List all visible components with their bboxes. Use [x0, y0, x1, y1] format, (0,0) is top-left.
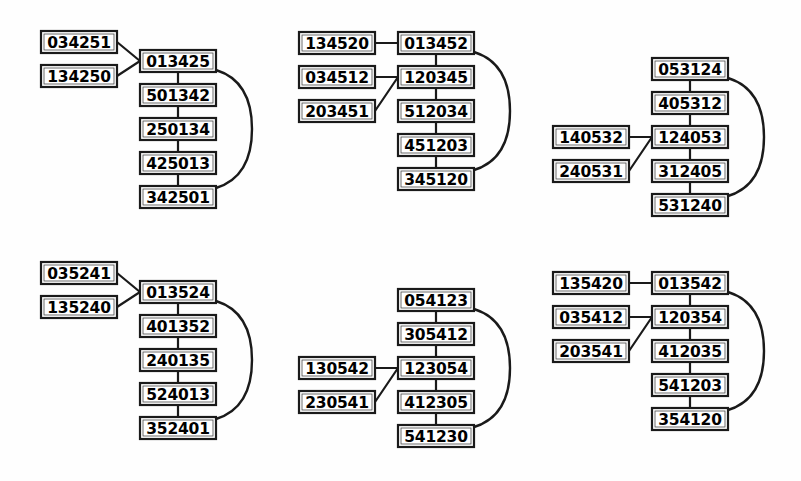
spine-node[interactable]: 541230 — [398, 425, 474, 447]
spine-node[interactable]: 501342 — [140, 84, 216, 106]
node-label: 135420 — [559, 275, 623, 293]
spine-node[interactable]: 124053 — [652, 126, 728, 148]
node-label: 345120 — [404, 171, 468, 189]
node-label: 240531 — [559, 163, 623, 181]
node-label: 140532 — [559, 129, 623, 147]
spine-node[interactable]: 342501 — [140, 186, 216, 208]
node-label: 531240 — [658, 197, 722, 215]
node-label: 354120 — [658, 411, 722, 429]
node-label: 013425 — [146, 53, 210, 71]
node-label: 013452 — [404, 35, 468, 53]
node-label: 250134 — [146, 121, 210, 139]
node-label: 342501 — [146, 189, 210, 207]
node-label: 013524 — [146, 284, 210, 302]
spine-node[interactable]: 405312 — [652, 92, 728, 114]
spine-node[interactable]: 053124 — [652, 58, 728, 80]
spine-node[interactable]: 013542 — [652, 272, 728, 294]
spine-node[interactable]: 305412 — [398, 323, 474, 345]
spine-node[interactable]: 250134 — [140, 118, 216, 140]
node-label: 501342 — [146, 87, 210, 105]
spine-node[interactable]: 013524 — [140, 281, 216, 303]
node-label: 524013 — [146, 386, 210, 404]
node-label: 405312 — [658, 95, 722, 113]
node-label: 135240 — [47, 299, 111, 317]
node-label: 130542 — [305, 360, 369, 378]
spine-node[interactable]: 512034 — [398, 100, 474, 122]
branch-node[interactable]: 134520 — [299, 32, 375, 54]
spine-node[interactable]: 531240 — [652, 194, 728, 216]
spine-node[interactable]: 541203 — [652, 374, 728, 396]
node-label: 034512 — [305, 69, 369, 87]
node-label: 120354 — [658, 309, 722, 327]
spine-node[interactable]: 412035 — [652, 340, 728, 362]
bypass-curve — [474, 52, 510, 170]
node-label: 034251 — [47, 34, 111, 52]
branch-node[interactable]: 034251 — [41, 31, 117, 53]
spine-node[interactable]: 123054 — [398, 357, 474, 379]
node-label: 425013 — [146, 155, 210, 173]
spine-node[interactable]: 345120 — [398, 168, 474, 190]
branch-connector — [117, 61, 140, 76]
branch-connector — [375, 77, 398, 111]
node-label: 401352 — [146, 318, 210, 336]
bypass-curve — [216, 301, 252, 419]
spine-node[interactable]: 312405 — [652, 160, 728, 182]
spine-node[interactable]: 451203 — [398, 134, 474, 156]
bypass-curve — [474, 309, 510, 427]
spine-node[interactable]: 013452 — [398, 32, 474, 54]
node-label: 240135 — [146, 352, 210, 370]
spine-node[interactable]: 524013 — [140, 383, 216, 405]
node-label: 203541 — [559, 343, 623, 361]
node-label: 054123 — [404, 292, 468, 310]
node-label: 312405 — [658, 163, 722, 181]
branch-node[interactable]: 035241 — [41, 262, 117, 284]
branch-node[interactable]: 203451 — [299, 100, 375, 122]
node-label: 134520 — [305, 35, 369, 53]
branch-node[interactable]: 140532 — [553, 126, 629, 148]
branch-connector — [117, 42, 140, 61]
branch-node[interactable]: 135240 — [41, 296, 117, 318]
node-label: 123054 — [404, 360, 468, 378]
node-label: 013542 — [658, 275, 722, 293]
spine-node[interactable]: 401352 — [140, 315, 216, 337]
node-label: 451203 — [404, 137, 468, 155]
node-label: 541230 — [404, 428, 468, 446]
diagram-canvas: 0342511342500134255013422501344250133425… — [0, 0, 801, 481]
node-label: 124053 — [658, 129, 722, 147]
branch-node[interactable]: 134250 — [41, 65, 117, 87]
node-label: 352401 — [146, 420, 210, 438]
node-label: 134250 — [47, 68, 111, 86]
branch-node[interactable]: 230541 — [299, 391, 375, 413]
branch-connector — [117, 273, 140, 292]
spine-node[interactable]: 120354 — [652, 306, 728, 328]
node-label: 512034 — [404, 103, 468, 121]
branch-node[interactable]: 240531 — [553, 160, 629, 182]
branch-node[interactable]: 135420 — [553, 272, 629, 294]
node-label: 541203 — [658, 377, 722, 395]
branch-connector — [375, 368, 398, 402]
spine-node[interactable]: 412305 — [398, 391, 474, 413]
bypass-curve — [216, 70, 252, 188]
branch-node[interactable]: 034512 — [299, 66, 375, 88]
node-label: 305412 — [404, 326, 468, 344]
node-label: 120345 — [404, 69, 468, 87]
spine-node[interactable]: 354120 — [652, 408, 728, 430]
node-label: 412035 — [658, 343, 722, 361]
bypass-curve — [728, 78, 764, 196]
spine-node[interactable]: 352401 — [140, 417, 216, 439]
spine-node[interactable]: 013425 — [140, 50, 216, 72]
spine-node[interactable]: 240135 — [140, 349, 216, 371]
node-label: 203451 — [305, 103, 369, 121]
node-label: 035412 — [559, 309, 623, 327]
branch-node[interactable]: 130542 — [299, 357, 375, 379]
branch-node[interactable]: 035412 — [553, 306, 629, 328]
branch-connector — [629, 137, 652, 171]
node-label: 053124 — [658, 61, 722, 79]
node-label: 412305 — [404, 394, 468, 412]
branch-node[interactable]: 203541 — [553, 340, 629, 362]
permutation-diagram-svg: 0342511342500134255013422501344250133425… — [0, 0, 801, 481]
spine-node[interactable]: 120345 — [398, 66, 474, 88]
spine-node[interactable]: 054123 — [398, 289, 474, 311]
node-label: 230541 — [305, 394, 369, 412]
spine-node[interactable]: 425013 — [140, 152, 216, 174]
